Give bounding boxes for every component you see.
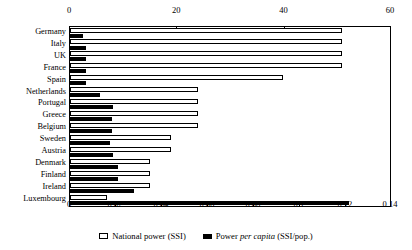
bar-national-power-denmark bbox=[70, 159, 150, 164]
bottom-axis-tick-012 bbox=[345, 203, 346, 207]
horizontal-bar-chart: 0 20 40 60 Germany Italy UK France Spain… bbox=[0, 0, 412, 250]
legend-label-power-per-capita: Power per capita (SSI/pop.) bbox=[216, 231, 313, 241]
bar-power-per-capita-spain bbox=[70, 81, 86, 85]
bar-national-power-france bbox=[70, 63, 342, 68]
category-label-luxembourg: Luxembourg bbox=[0, 194, 66, 203]
category-label-finland: Finland bbox=[0, 170, 66, 179]
bar-group-austria bbox=[70, 146, 390, 158]
bar-power-per-capita-netherlands bbox=[70, 93, 100, 97]
bar-group-denmark bbox=[70, 158, 390, 170]
bar-national-power-germany bbox=[70, 28, 342, 33]
bottom-axis-tick-006 bbox=[207, 203, 208, 207]
bar-national-power-greece bbox=[70, 111, 198, 116]
bar-power-per-capita-finland bbox=[70, 177, 118, 181]
category-label-sweden: Sweden bbox=[0, 134, 66, 143]
bar-group-spain bbox=[70, 75, 390, 87]
chart-legend: National power (SSI) Power per capita (S… bbox=[0, 231, 412, 241]
legend-label-national-power: National power (SSI) bbox=[112, 231, 186, 241]
bottom-axis-tick-label-0: 0 bbox=[67, 199, 71, 209]
bar-national-power-ireland bbox=[70, 183, 150, 188]
bar-group-germany bbox=[70, 27, 390, 39]
black-square-icon bbox=[203, 234, 212, 239]
top-axis-tick-label-1: 20 bbox=[172, 5, 181, 15]
legend-label-italic: per capita bbox=[240, 231, 275, 241]
bar-power-per-capita-france bbox=[70, 69, 86, 73]
bar-power-per-capita-germany bbox=[70, 34, 83, 38]
category-axis-labels: Germany Italy UK France Spain Netherland… bbox=[0, 26, 66, 207]
white-square-icon bbox=[99, 233, 108, 239]
category-label-germany: Germany bbox=[0, 27, 66, 36]
legend-label-prefix: Power bbox=[216, 231, 240, 241]
bar-power-per-capita-denmark bbox=[70, 165, 118, 169]
bar-national-power-sweden bbox=[70, 135, 171, 140]
bar-group-sweden bbox=[70, 134, 390, 146]
bar-power-per-capita-italy bbox=[70, 46, 86, 50]
bar-power-per-capita-uk bbox=[70, 57, 86, 61]
legend-item-national-power: National power (SSI) bbox=[99, 231, 186, 241]
bar-national-power-finland bbox=[70, 171, 150, 176]
category-label-netherlands: Netherlands bbox=[0, 87, 66, 96]
category-label-denmark: Denmark bbox=[0, 158, 66, 167]
bottom-axis-tick-008 bbox=[253, 203, 254, 207]
category-label-france: France bbox=[0, 63, 66, 72]
bar-group-italy bbox=[70, 39, 390, 51]
bar-national-power-luxembourg bbox=[70, 195, 107, 200]
top-axis-tick-label-3: 60 bbox=[386, 5, 395, 15]
bar-group-finland bbox=[70, 170, 390, 182]
bottom-axis-tick-002 bbox=[115, 203, 116, 207]
bar-national-power-belgium bbox=[70, 123, 198, 128]
bar-national-power-portugal bbox=[70, 99, 198, 104]
bar-national-power-italy bbox=[70, 39, 342, 44]
bar-group-portugal bbox=[70, 99, 390, 111]
bar-group-uk bbox=[70, 51, 390, 63]
bar-national-power-netherlands bbox=[70, 87, 198, 92]
bar-power-per-capita-sweden bbox=[70, 141, 110, 145]
bar-national-power-austria bbox=[70, 147, 171, 152]
top-axis-tick-label-0: 0 bbox=[67, 5, 71, 15]
legend-item-power-per-capita: Power per capita (SSI/pop.) bbox=[203, 231, 313, 241]
bar-power-per-capita-belgium bbox=[70, 129, 112, 133]
bar-power-per-capita-ireland bbox=[70, 189, 134, 193]
bar-series-container bbox=[70, 27, 390, 206]
bar-power-per-capita-portugal bbox=[70, 105, 113, 109]
bottom-axis-tick-label-7: 0.14 bbox=[383, 199, 398, 209]
category-label-spain: Spain bbox=[0, 75, 66, 84]
bar-national-power-spain bbox=[70, 75, 283, 80]
bottom-axis-tick-004 bbox=[161, 203, 162, 207]
bar-group-greece bbox=[70, 111, 390, 123]
category-label-italy: Italy bbox=[0, 39, 66, 48]
bottom-axis-tick-01 bbox=[299, 203, 300, 207]
bar-national-power-uk bbox=[70, 51, 342, 56]
category-label-austria: Austria bbox=[0, 146, 66, 155]
category-label-belgium: Belgium bbox=[0, 122, 66, 131]
bar-group-netherlands bbox=[70, 87, 390, 99]
bar-group-france bbox=[70, 63, 390, 75]
top-axis-tick-label-2: 40 bbox=[279, 5, 288, 15]
category-label-greece: Greece bbox=[0, 110, 66, 119]
category-label-portugal: Portugal bbox=[0, 98, 66, 107]
category-label-ireland: Ireland bbox=[0, 182, 66, 191]
bar-group-ireland bbox=[70, 182, 390, 194]
legend-label-suffix: (SSI/pop.) bbox=[275, 231, 313, 241]
bar-power-per-capita-austria bbox=[70, 153, 113, 157]
bar-group-belgium bbox=[70, 122, 390, 134]
category-label-uk: UK bbox=[0, 51, 66, 60]
bar-power-per-capita-greece bbox=[70, 117, 112, 121]
